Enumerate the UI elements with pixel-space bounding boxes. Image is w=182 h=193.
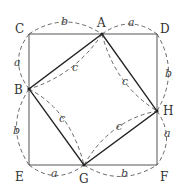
outer-square-CDFE (29, 34, 157, 165)
label-A: A (96, 16, 106, 30)
label-B: B (14, 83, 23, 97)
seg-label-GH: c (116, 120, 122, 133)
inner-dashed-arcs (29, 34, 157, 165)
label-G: G (79, 172, 89, 186)
label-D: D (160, 22, 170, 36)
inner-square-AHGB (29, 34, 157, 165)
seg-label-EG: a (51, 167, 58, 180)
seg-label-AH: c (122, 75, 128, 88)
label-E: E (15, 170, 24, 184)
seg-label-DH: b (165, 67, 172, 80)
outer-dashed-arcs (17, 22, 169, 177)
seg-label-BG: c (59, 112, 65, 125)
vertex-dots (27, 32, 158, 166)
seg-label-GF: b (121, 167, 128, 180)
seg-label-BE: b (13, 124, 20, 137)
seg-label-CB: a (14, 56, 21, 69)
label-C: C (15, 22, 24, 36)
seg-label-AB: c (72, 61, 78, 74)
geometry-diagram: A C D B H E G F b a a b b a a b c c c c (0, 0, 182, 193)
label-F: F (160, 170, 168, 184)
seg-label-HF: a (164, 127, 171, 140)
label-H: H (163, 104, 173, 118)
seg-label-AD: a (128, 16, 135, 29)
seg-label-CA: b (61, 15, 68, 28)
